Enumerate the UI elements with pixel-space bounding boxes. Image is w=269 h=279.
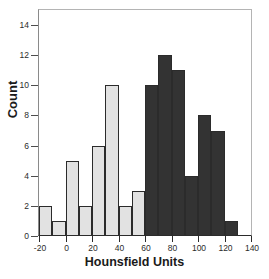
- y-axis-tick-label: 8: [24, 110, 29, 120]
- histogram-bar: [79, 206, 92, 236]
- y-axis-tick: 6: [31, 146, 38, 147]
- x-axis-tick: 0: [66, 236, 67, 242]
- histogram-bar: [119, 206, 132, 236]
- x-axis-tick-label: 20: [88, 243, 97, 253]
- x-axis-tick: 140: [251, 236, 252, 242]
- y-axis-tick: 0: [31, 236, 38, 237]
- histogram-bar: [198, 115, 211, 236]
- y-axis-tick: 4: [31, 176, 38, 177]
- x-axis-tick: 40: [119, 236, 120, 242]
- y-axis-tick: 8: [31, 115, 38, 116]
- x-axis-tick: 100: [198, 236, 199, 242]
- y-axis-tick-label: 0: [24, 231, 29, 241]
- y-axis-title: Count: [5, 60, 20, 140]
- histogram-bar: [132, 191, 145, 236]
- x-axis-tick-label: -20: [34, 243, 46, 253]
- histogram-bar: [172, 70, 185, 236]
- x-axis-tick: 60: [145, 236, 146, 242]
- x-axis-tick: 20: [92, 236, 93, 242]
- y-axis-tick-label: 6: [24, 141, 29, 151]
- plot-area: [39, 10, 251, 236]
- histogram-bar: [52, 221, 65, 236]
- x-axis-tick-label: 100: [192, 243, 206, 253]
- y-axis-tick-label: 12: [20, 50, 29, 60]
- x-axis-tick: 120: [225, 236, 226, 242]
- y-axis-tick-label: 10: [20, 80, 29, 90]
- y-axis-tick-label: 14: [20, 20, 29, 30]
- histogram-bar: [105, 85, 118, 236]
- y-axis-tick: 14: [31, 25, 38, 26]
- histogram-bar: [66, 161, 79, 236]
- histogram-bar: [211, 131, 224, 236]
- y-axis-tick: 12: [31, 55, 38, 56]
- x-axis-tick-label: 40: [115, 243, 124, 253]
- histogram-bar: [225, 221, 238, 236]
- histogram-bar: [185, 176, 198, 236]
- x-axis-tick-label: 120: [218, 243, 232, 253]
- histogram-bar: [39, 206, 52, 236]
- histogram-bar: [145, 85, 158, 236]
- x-axis-tick-label: 140: [245, 243, 259, 253]
- y-axis-tick: 2: [31, 206, 38, 207]
- y-axis-tick-label: 4: [24, 171, 29, 181]
- y-axis-tick: 10: [31, 85, 38, 86]
- x-axis-tick-label: 60: [141, 243, 150, 253]
- histogram-chart: Count 02468101214 -20020406080100120140 …: [0, 0, 269, 279]
- x-axis-tick: -20: [39, 236, 40, 242]
- x-axis-tick: 80: [172, 236, 173, 242]
- histogram-bar: [158, 55, 171, 236]
- x-axis-title: Hounsfield Units: [0, 255, 269, 269]
- x-axis-tick-label: 80: [168, 243, 177, 253]
- histogram-bar: [92, 146, 105, 236]
- y-axis-tick-label: 2: [24, 201, 29, 211]
- x-axis-tick-label: 0: [64, 243, 69, 253]
